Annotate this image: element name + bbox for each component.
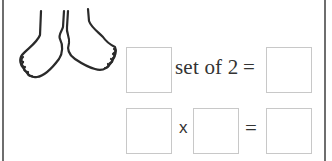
count-input-box[interactable] [126,47,172,93]
frame-right-border [324,0,326,161]
set-of-label: set of 2 [175,55,238,80]
equals-sign: = [245,116,257,141]
product-answer-box[interactable] [266,108,312,154]
factor-input-box-1[interactable] [126,108,172,154]
frame-left-border [2,0,4,161]
multiply-sign: x [179,118,188,138]
feet-icon [15,5,125,85]
factor-input-box-2[interactable] [193,108,239,154]
total-answer-box[interactable] [266,47,312,93]
equals-sign: = [243,55,255,80]
